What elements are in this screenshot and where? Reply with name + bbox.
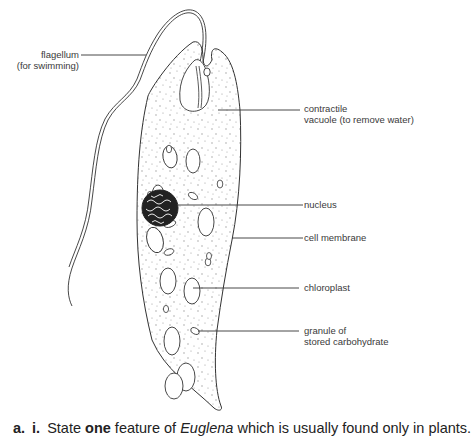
label-granule-line2: stored carbohydrate	[304, 336, 389, 347]
label-flagellum-line2: (for swimming)	[12, 60, 79, 71]
label-chloroplast: chloroplast	[304, 282, 350, 293]
label-contractile-vacuole: contractile vacuole (to remove water)	[304, 103, 414, 125]
question-italic: Euglena	[180, 420, 233, 436]
label-nucleus: nucleus	[304, 199, 337, 210]
question-bold: one	[85, 420, 111, 436]
label-contractile-vacuole-line2: vacuole (to remove water)	[304, 114, 414, 125]
label-cell-membrane-text: cell membrane	[304, 232, 366, 243]
question-text-3: which is usually found only in plants.	[233, 420, 471, 436]
label-chloroplast-text: chloroplast	[304, 282, 350, 293]
label-nucleus-text: nucleus	[304, 199, 337, 210]
label-contractile-vacuole-line1: contractile	[304, 103, 414, 114]
label-flagellum-line1: flagellum	[28, 49, 79, 60]
question-part: a.	[13, 420, 25, 436]
question-a-i: a.i.State one feature of Euglena which i…	[13, 420, 471, 436]
label-granule: granule of stored carbohydrate	[304, 325, 389, 347]
question-subpart: i.	[32, 420, 40, 436]
question-text-2: feature of	[111, 420, 180, 436]
label-flagellum: flagellum (for swimming)	[28, 49, 79, 71]
label-cell-membrane: cell membrane	[304, 232, 366, 243]
label-granule-line1: granule of	[304, 325, 389, 336]
question-text-1: State	[47, 420, 85, 436]
nucleus	[142, 190, 178, 226]
contractile-vacuole	[204, 68, 210, 76]
